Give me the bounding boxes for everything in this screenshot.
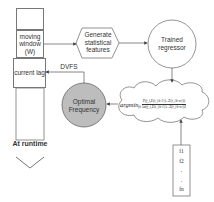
current-lag-box: current lag <box>13 58 46 88</box>
at-runtime-label: At runtime <box>6 140 54 148</box>
objective-formula: argmin fi P(f_i,Σ(t_{k-1})...Σ(t_{k-w}))… <box>120 96 212 112</box>
argmin-subscript: fi <box>139 104 141 109</box>
argmin-operator: argmin <box>120 101 139 108</box>
dvfs-label: DVFS <box>58 63 80 71</box>
frequency-item: f2 <box>173 157 190 167</box>
frequency-item: . <box>173 166 190 176</box>
frequency-list: f1 f2 . . fn <box>173 147 190 195</box>
moving-window-label: moving window (W) <box>17 33 43 56</box>
optimal-frequency-label: Optimal Frequency <box>64 98 104 113</box>
objective-denominator: lat(f_i,Σ(t_{k-1})...Σ(t_{k-w})) <box>142 105 186 110</box>
regressor-label: Trained regressor <box>152 36 192 51</box>
frequency-item: fn <box>173 185 190 195</box>
features-label: Generate statistical features <box>80 31 116 54</box>
window-column-tail <box>16 88 44 140</box>
arrow-optimal-to-lag <box>46 72 84 83</box>
objective-fraction: P(f_i,Σ(t_{k-1})...Σ(t_{k-w})) lat(f_i,Σ… <box>142 99 186 110</box>
frequency-item: f1 <box>173 147 190 157</box>
window-column-top <box>16 8 44 30</box>
current-lag-label: current lag <box>14 69 45 77</box>
moving-window-box: moving window (W) <box>16 30 44 58</box>
frequency-item: . <box>173 176 190 186</box>
chevron-down-icon <box>16 157 44 168</box>
